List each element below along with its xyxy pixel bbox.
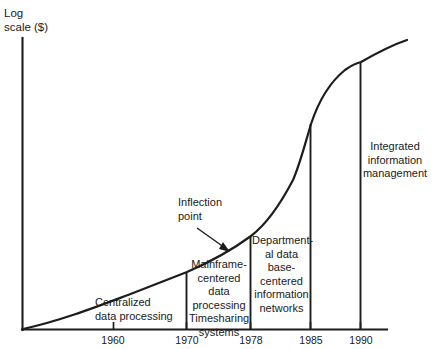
y-axis-title: Log scale ($) — [4, 6, 48, 34]
inflection-point-label: Inflection point — [178, 196, 258, 223]
s-curve-figure: Log scale ($) 1960 1970 1978 1985 1990 C… — [0, 0, 436, 349]
era-label-centralized-data-processing: Centralized data processing — [95, 296, 191, 323]
x-tick-label-1985: 1985 — [288, 334, 334, 347]
inflection-pointer-arrowhead — [219, 242, 230, 252]
era-label-mainframe-centered: Mainframe- centered data processing Time… — [189, 258, 249, 339]
x-tick-label-1960: 1960 — [90, 334, 136, 347]
x-tick-label-1990: 1990 — [338, 334, 384, 347]
era-label-integrated-information-management: Integrated information management — [356, 140, 434, 181]
era-label-departmental-database: Department- al data base- centered infor… — [252, 234, 311, 315]
